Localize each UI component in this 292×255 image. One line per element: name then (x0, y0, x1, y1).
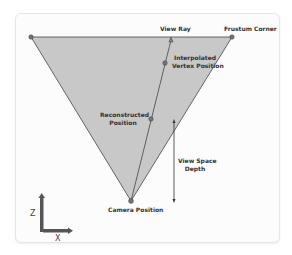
label-reconstructed-line2: Position (100, 119, 146, 127)
label-frustum-corner: Frustum Corner (224, 25, 277, 33)
label-view-space-depth: View Space Depth (178, 157, 212, 173)
frustum-diagram (0, 0, 292, 255)
x-axis-arrow-icon (68, 228, 73, 235)
label-depth-line2: Depth (178, 165, 212, 173)
frustum-corner-right-point (230, 35, 234, 39)
label-reconstructed-position: Reconstructed Position (100, 111, 146, 127)
label-reconstructed-line1: Reconstructed (100, 111, 146, 119)
depth-arrow-bottom-icon (173, 199, 176, 203)
label-axis-x: X (55, 234, 60, 243)
label-axis-z: Z (30, 209, 35, 218)
interpolated-vertex-point (163, 61, 167, 65)
x-axis-bar (43, 229, 69, 233)
label-interpolated-line2: Vertex Position (172, 62, 218, 70)
camera-position-point (129, 199, 134, 204)
z-axis-arrow-icon (39, 193, 46, 198)
label-interpolated-line1: Interpolated (172, 54, 218, 62)
label-camera-position: Camera Position (108, 206, 163, 214)
label-depth-line1: View Space (178, 157, 212, 165)
frustum-corner-left-point (29, 35, 33, 39)
z-axis-bar (40, 197, 44, 232)
label-interpolated-vertex: Interpolated Vertex Position (172, 54, 218, 70)
label-view-ray: View Ray (160, 25, 191, 33)
reconstructed-position-point (149, 117, 153, 121)
